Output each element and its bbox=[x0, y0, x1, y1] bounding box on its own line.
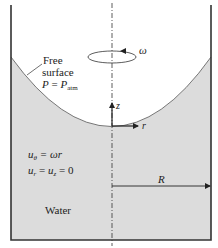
u-theta-equation: uθ = ωr bbox=[28, 148, 62, 164]
free-surface-label-line2: surface bbox=[42, 66, 74, 78]
free-surface-leader bbox=[27, 64, 42, 75]
ur-uz-equation: ur = uz = 0 bbox=[28, 164, 73, 180]
omega-label: ω bbox=[139, 44, 147, 56]
rotating-tank-diagram: ω Free surface P = Patm z r uθ = ωr ur =… bbox=[0, 0, 218, 248]
pressure-label: P = Patm bbox=[42, 78, 78, 94]
water-label: Water bbox=[45, 204, 71, 216]
radius-label: R bbox=[158, 173, 165, 185]
r-axis-label: r bbox=[142, 120, 146, 132]
rotation-arrow-icon bbox=[120, 48, 126, 54]
free-surface-label-line1: Free bbox=[43, 54, 63, 66]
z-axis-label: z bbox=[116, 100, 120, 112]
diagram-canvas bbox=[0, 0, 218, 248]
